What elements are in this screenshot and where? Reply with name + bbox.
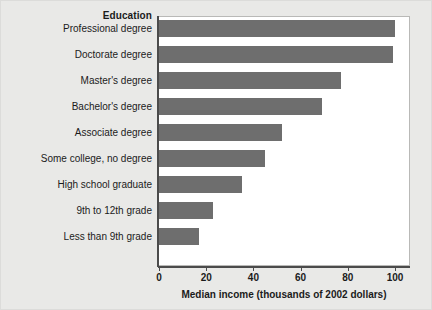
bar (159, 176, 242, 193)
bar-category-label: Doctorate degree (11, 49, 152, 60)
bar (159, 72, 341, 89)
bar-rows: Professional degreeDoctorate degreeMaste… (1, 18, 432, 252)
x-tick-label: 100 (387, 272, 404, 283)
bar-category-label: Some college, no degree (11, 153, 152, 164)
bar-row: Doctorate degree (1, 44, 432, 70)
x-tick-label: 20 (201, 272, 212, 283)
bar-row: Bachelor's degree (1, 96, 432, 122)
x-tick-mark (159, 266, 160, 271)
x-tick-mark (395, 266, 396, 271)
x-tick-mark (301, 266, 302, 271)
bar-row: 9th to 12th grade (1, 200, 432, 226)
x-tick-mark (253, 266, 254, 271)
bar (159, 98, 322, 115)
bar-row: Associate degree (1, 122, 432, 148)
bar-category-label: Bachelor's degree (11, 101, 152, 112)
bar (159, 20, 395, 37)
bar-row: Professional degree (1, 18, 432, 44)
bar (159, 150, 265, 167)
bar-category-label: Professional degree (11, 23, 152, 34)
x-tick-mark (206, 266, 207, 271)
bar-chart-figure: Education Professional degreeDoctorate d… (0, 0, 432, 310)
bar-row: High school graduate (1, 174, 432, 200)
x-tick-mark (348, 266, 349, 271)
x-tick-label: 0 (156, 272, 162, 283)
x-tick-label: 40 (248, 272, 259, 283)
bar-row: Master's degree (1, 70, 432, 96)
bar-category-label: Less than 9th grade (11, 231, 152, 242)
bar-row: Some college, no degree (1, 148, 432, 174)
bar (159, 124, 282, 141)
x-tick-label: 80 (342, 272, 353, 283)
x-tick-label: 60 (295, 272, 306, 283)
bar-row: Less than 9th grade (1, 226, 432, 252)
bar (159, 202, 213, 219)
x-axis-line (158, 266, 410, 268)
bar-category-label: 9th to 12th grade (11, 205, 152, 216)
bar (159, 228, 199, 245)
x-axis-title: Median income (thousands of 2002 dollars… (158, 289, 410, 300)
bar-category-label: High school graduate (11, 179, 152, 190)
bar (159, 46, 393, 63)
bar-category-label: Master's degree (11, 75, 152, 86)
bar-category-label: Associate degree (11, 127, 152, 138)
